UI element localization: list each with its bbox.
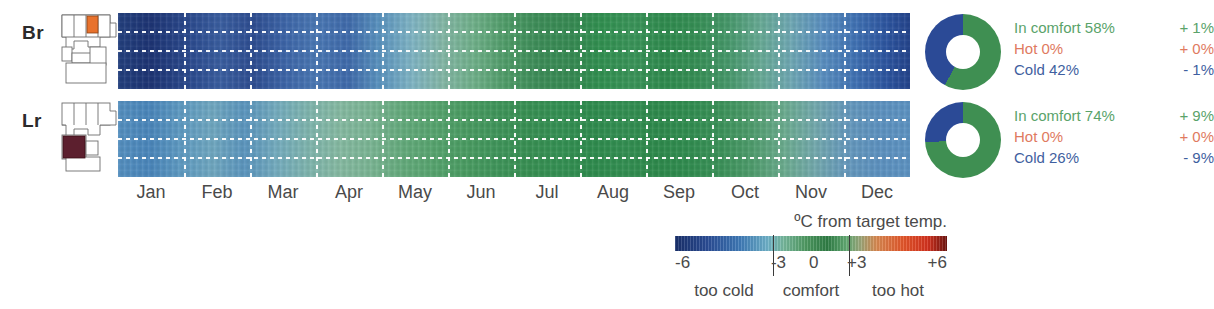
heatmap-gridline-v bbox=[448, 13, 450, 89]
stat-label-cold: Cold 26% bbox=[1014, 147, 1079, 168]
colorbar-zone-too-hot: too hot bbox=[849, 281, 947, 301]
colorbar bbox=[675, 236, 947, 251]
stat-row-hot: Hot 0%+ 0% bbox=[1014, 126, 1214, 147]
heatmap-gridline-v bbox=[580, 13, 582, 89]
month-axis: JanFebMarAprMayJunJulAugSepOctNovDec bbox=[118, 182, 910, 208]
colorbar-zones: too coldcomforttoo hot bbox=[675, 281, 947, 305]
heatmap-gridline-v bbox=[646, 101, 648, 177]
heatmap-gridline-v bbox=[514, 13, 516, 89]
heatmap-gridline-v bbox=[382, 13, 384, 89]
heatmap-gridline-v bbox=[580, 101, 582, 177]
donut-chart-lr bbox=[925, 102, 1001, 178]
month-tick-sep: Sep bbox=[646, 182, 712, 203]
colorbar-tick-plus6: +6 bbox=[928, 253, 947, 273]
month-tick-may: May bbox=[382, 182, 448, 203]
month-tick-jun: Jun bbox=[448, 182, 514, 203]
month-tick-jan: Jan bbox=[118, 182, 184, 203]
row-label-br: Br bbox=[22, 22, 44, 44]
colorbar-ticks: -6-30+3+6 bbox=[675, 251, 947, 273]
colorbar-texture bbox=[675, 236, 947, 251]
colorbar-title: ºC from target temp. bbox=[675, 212, 947, 232]
colorbar-zone-comfort: comfort bbox=[773, 281, 849, 301]
heatmap-gridline-v bbox=[316, 101, 318, 177]
heatmap-strip-br[interactable] bbox=[118, 13, 910, 89]
heatmap-gridline-v bbox=[382, 101, 384, 177]
stat-delta-comfort: + 1% bbox=[1169, 17, 1214, 38]
heatmap-gridline-v bbox=[712, 13, 714, 89]
month-tick-aug: Aug bbox=[580, 182, 646, 203]
month-tick-oct: Oct bbox=[712, 182, 778, 203]
heatmap-gridline-v bbox=[250, 101, 252, 177]
heatmap-gridline-v bbox=[316, 13, 318, 89]
heatmap-gridline-v bbox=[250, 13, 252, 89]
stat-delta-comfort: + 9% bbox=[1169, 105, 1214, 126]
month-tick-mar: Mar bbox=[250, 182, 316, 203]
stat-delta-cold: - 9% bbox=[1173, 147, 1214, 168]
stat-label-comfort: In comfort 74% bbox=[1014, 105, 1115, 126]
stat-row-hot: Hot 0%+ 0% bbox=[1014, 38, 1214, 59]
month-tick-apr: Apr bbox=[316, 182, 382, 203]
heatmap-gridline-v bbox=[184, 13, 186, 89]
stats-lr: In comfort 74%+ 9%Hot 0%+ 0%Cold 26%- 9% bbox=[1014, 105, 1214, 168]
stat-label-hot: Hot 0% bbox=[1014, 38, 1063, 59]
colorbar-zone-too-cold: too cold bbox=[675, 281, 773, 301]
stat-delta-hot: + 0% bbox=[1169, 38, 1214, 59]
month-tick-nov: Nov bbox=[778, 182, 844, 203]
colorbar-tick-minus6: -6 bbox=[675, 253, 690, 273]
stat-row-comfort: In comfort 74%+ 9% bbox=[1014, 105, 1214, 126]
stat-delta-hot: + 0% bbox=[1169, 126, 1214, 147]
month-tick-jul: Jul bbox=[514, 182, 580, 203]
heatmap-gridline-v bbox=[778, 13, 780, 89]
colorbar-legend: ºC from target temp. -6-30+3+6 too coldc… bbox=[675, 212, 947, 305]
stat-delta-cold: - 1% bbox=[1173, 59, 1214, 80]
stats-br: In comfort 58%+ 1%Hot 0%+ 0%Cold 42%- 1% bbox=[1014, 17, 1214, 80]
floorplan-br bbox=[60, 13, 118, 87]
floorplan-lr-highlight bbox=[63, 136, 85, 158]
floorplan-br-highlight bbox=[87, 16, 98, 33]
row-label-lr: Lr bbox=[22, 110, 42, 132]
month-tick-feb: Feb bbox=[184, 182, 250, 203]
heatmap-gridline-v bbox=[184, 101, 186, 177]
heatmap-gridline-v bbox=[514, 101, 516, 177]
stat-label-cold: Cold 42% bbox=[1014, 59, 1079, 80]
heatmap-gridline-v bbox=[646, 13, 648, 89]
colorbar-tick-minus3: -3 bbox=[771, 253, 786, 273]
heatmap-strip-lr[interactable] bbox=[118, 101, 910, 177]
stat-label-comfort: In comfort 58% bbox=[1014, 17, 1115, 38]
floorplan-lr-svg bbox=[60, 101, 118, 175]
floorplan-br-svg bbox=[60, 13, 118, 87]
heatmap-gridline-v bbox=[712, 101, 714, 177]
stat-row-comfort: In comfort 58%+ 1% bbox=[1014, 17, 1214, 38]
floorplan-lr bbox=[60, 101, 118, 175]
heatmap-gridline-v bbox=[844, 101, 846, 177]
stat-row-cold: Cold 26%- 9% bbox=[1014, 147, 1214, 168]
colorbar-tick-0: 0 bbox=[809, 253, 818, 273]
heatmap-gridline-v bbox=[448, 101, 450, 177]
heatmap-gridline-v bbox=[844, 13, 846, 89]
stat-row-cold: Cold 42%- 1% bbox=[1014, 59, 1214, 80]
colorbar-tick-plus3: +3 bbox=[847, 253, 866, 273]
heatmap-gridline-v bbox=[778, 101, 780, 177]
donut-chart-br bbox=[925, 14, 1001, 90]
stat-label-hot: Hot 0% bbox=[1014, 126, 1063, 147]
month-tick-dec: Dec bbox=[844, 182, 910, 203]
